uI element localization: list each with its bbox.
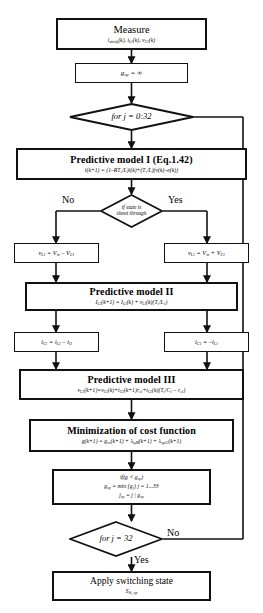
ic-yes-formula: iC1 = –iL1 — [195, 339, 218, 346]
update-line2: gop = min {gj} j = 1...33 — [104, 483, 158, 491]
state-check-label: if state is shoot through — [117, 205, 147, 217]
flowchart-canvas: Measure iabcdq(k), iL1(k), vC1(k) gop = … — [0, 0, 263, 613]
init-formula: gop = ∞ — [121, 70, 142, 78]
model2-formula: IL1(k+1) = IL1(k) + vL1(k)(Ts/L1) — [96, 299, 168, 307]
loop-end-label: for j = 32 — [100, 534, 133, 543]
node-predictive-model-2: Predictive model II IL1(k+1) = IL1(k) + … — [25, 282, 238, 311]
vl-yes-formula: vL1 = Vin + VC1 — [188, 250, 225, 257]
measure-title: Measure — [113, 24, 149, 36]
update-line3: jop = j | gop — [119, 492, 143, 500]
node-ic-no: iC1 = iL1 – iO — [14, 332, 99, 352]
ic-no-formula: iC1 = iL1 – iO — [41, 339, 72, 346]
node-update-optimum: if(g < gop) gop = min {gj} j = 1...33 jo… — [52, 469, 211, 505]
model3-formula: vC1(k+1)=vC1(k)+iC1(k+1)rc1+iC1(k)(Ts/C1… — [78, 387, 186, 395]
node-vl-yes: vL1 = Vin + VC1 — [164, 243, 249, 263]
state-check-line2: shoot through — [117, 210, 147, 216]
apply-title: Apply switching state — [90, 576, 173, 587]
node-vl-no: vL1 = Vin – VC1 — [14, 243, 99, 263]
node-state-check: if state is shoot through — [100, 194, 163, 228]
vl-no-formula: vL1 = Vin – VC1 — [38, 250, 74, 257]
node-measure: Measure iabcdq(k), iL1(k), vC1(k) — [56, 18, 207, 50]
model2-title: Predictive model II — [90, 286, 174, 297]
node-ic-yes: iC1 = –iL1 — [164, 332, 249, 352]
model1-title: Predictive model I (Eq.1.42) — [70, 154, 192, 165]
node-apply-switching-state: Apply switching state Sik_op — [52, 571, 211, 601]
node-loop-end: for j = 32 — [69, 521, 163, 557]
node-predictive-model-1: Predictive model I (Eq.1.42) i(k+1) = (1… — [16, 148, 247, 180]
edge-label-no-state: No — [62, 194, 74, 205]
measure-formula: iabcdq(k), iL1(k), vC1(k) — [108, 37, 155, 45]
cost-title: Minimization of cost function — [67, 425, 196, 436]
edge-label-yes-loop: Yes — [134, 554, 149, 565]
node-init-gop: gop = ∞ — [75, 63, 188, 83]
edge-label-yes-state: Yes — [168, 194, 183, 205]
model1-formula: i(k+1) = (1–RTs/L)i(k)+(Ts/L)(v(k)–e(k)) — [85, 167, 178, 175]
node-cost-function: Minimization of cost function g(k+1) = g… — [29, 419, 234, 452]
node-predictive-model-3: Predictive model III vC1(k+1)=vC1(k)+iC1… — [19, 369, 244, 400]
apply-formula: Sik_op — [126, 588, 138, 595]
node-loop-start: for j = 0:32 — [69, 103, 194, 131]
model3-title: Predictive model III — [88, 374, 176, 385]
edge-label-no-loop: No — [167, 527, 179, 538]
loop-start-label: for j = 0:32 — [112, 112, 152, 121]
update-line1: if(g < gop) — [120, 474, 143, 482]
cost-formula: g(k+1) = goc(k+1) + λiqM(k+1) + λvgvC(k+… — [82, 438, 182, 446]
